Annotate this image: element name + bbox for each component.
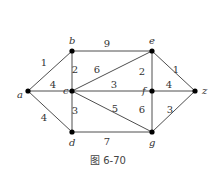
- vertex-label-f: f: [141, 85, 148, 96]
- edge-weight-c-f: 3: [111, 79, 117, 90]
- edge-weight-c-e: 6: [94, 64, 100, 75]
- graph-edges: [28, 51, 195, 132]
- edge-a-d: [28, 91, 72, 132]
- vertex-label-c: c: [63, 85, 69, 96]
- vertex-label-b: b: [69, 35, 75, 46]
- edge-weight-a-d: 4: [41, 112, 47, 123]
- vertex-g: [149, 129, 154, 134]
- vertex-f: [149, 88, 154, 93]
- edge-weight-labels: 144926353214637: [41, 38, 179, 147]
- vertex-label-e: e: [149, 35, 155, 46]
- vertex-c: [69, 88, 74, 93]
- edge-weight-e-f: 2: [139, 66, 145, 77]
- vertex-d: [69, 129, 74, 134]
- edge-weight-f-z: 4: [166, 79, 172, 90]
- vertex-label-z: z: [201, 85, 208, 96]
- vertex-b: [69, 48, 74, 53]
- weighted-graph-diagram: 144926353214637 abcdefgz 图 6-70: [0, 0, 217, 176]
- edge-weight-f-g: 6: [139, 104, 145, 115]
- vertex-label-d: d: [69, 137, 75, 148]
- vertex-label-a: a: [17, 89, 23, 100]
- edge-weight-e-z: 1: [173, 64, 179, 75]
- edge-weight-c-g: 5: [112, 103, 118, 114]
- edge-weight-b-c: 2: [72, 64, 78, 75]
- vertex-z: [192, 88, 197, 93]
- edge-weight-c-d: 3: [72, 105, 78, 116]
- edge-weight-b-e: 9: [104, 38, 110, 49]
- edge-weight-a-b: 1: [41, 57, 47, 68]
- edge-weight-d-g: 7: [104, 136, 110, 147]
- edge-weight-a-c: 4: [50, 79, 56, 90]
- edge-g-z: [152, 91, 195, 132]
- edge-weight-g-z: 3: [167, 104, 173, 115]
- vertex-labels: abcdefgz: [17, 35, 208, 148]
- vertex-e: [149, 48, 154, 53]
- vertex-label-g: g: [149, 137, 155, 148]
- vertex-a: [25, 88, 30, 93]
- figure-caption: 图 6-70: [90, 155, 126, 166]
- graph-nodes: [25, 48, 197, 134]
